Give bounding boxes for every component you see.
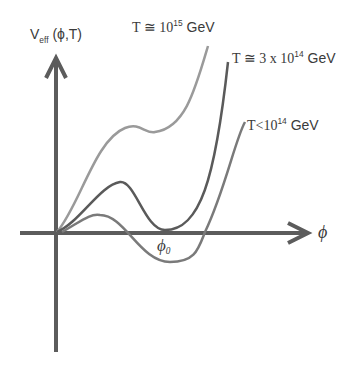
label-critical-temperature: T ≅ 3 x 1014 GeV	[232, 49, 336, 67]
label-prefix: T ≅ 3 x 10	[232, 51, 294, 66]
label-suffix: GeV	[304, 50, 336, 66]
phi-zero-main: ϕ	[157, 236, 166, 255]
x-axis-label: ϕ	[318, 222, 327, 243]
curve-critical-temperature	[57, 62, 228, 232]
y-axis-label: Veff (ϕ,T)	[30, 26, 82, 45]
phi-zero-label: ϕ0	[157, 236, 170, 256]
label-suffix: GeV	[183, 19, 215, 35]
y-axis-label-main: V	[30, 26, 39, 42]
label-prefix: T<10	[247, 118, 277, 133]
curve-high-temperature	[57, 46, 208, 232]
label-prefix: T ≅ 10	[132, 20, 173, 35]
phi-zero-sub: 0	[166, 246, 171, 256]
label-low-temperature: T<1014 GeV	[247, 116, 319, 134]
label-exponent: 14	[294, 49, 303, 59]
y-axis-label-sub: eff	[39, 35, 48, 45]
label-suffix: GeV	[287, 117, 319, 133]
y-axis-label-args: (ϕ,T)	[52, 26, 82, 42]
label-exponent: 14	[277, 116, 286, 126]
label-high-temperature: T ≅ 1015 GeV	[132, 18, 215, 36]
label-exponent: 15	[173, 18, 182, 28]
